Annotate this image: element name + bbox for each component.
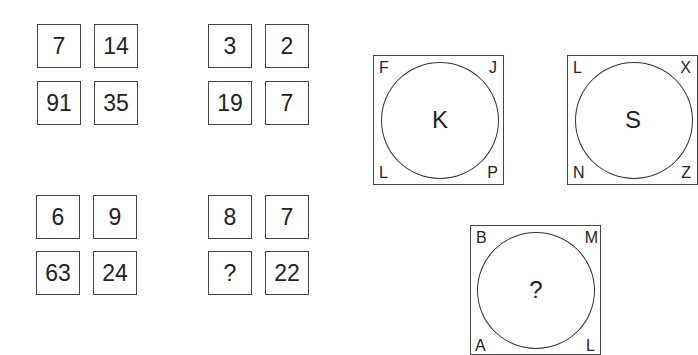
corner-top-left: B: [476, 230, 487, 246]
center-letter: S: [625, 106, 641, 134]
grid-cell: 6: [36, 195, 80, 239]
corner-top-right: M: [585, 230, 598, 246]
corner-top-left: F: [379, 60, 389, 76]
grid-cell: 3: [208, 24, 252, 68]
grid-cell: 7: [37, 24, 81, 68]
corner-top-right: J: [489, 60, 497, 76]
corner-bottom-right: P: [487, 165, 498, 181]
center-letter: ?: [529, 276, 542, 304]
grid-cell: 19: [208, 81, 252, 125]
grid-cell: 8: [208, 195, 252, 239]
corner-bottom-left: N: [573, 165, 585, 181]
circle-puzzle-unknown: ? B M A L: [470, 225, 601, 355]
circle-puzzle-k: K F J L P: [373, 55, 504, 185]
grid-cell: 7: [265, 81, 309, 125]
grid-cell: 63: [36, 251, 80, 295]
grid-cell: 9: [93, 195, 137, 239]
corner-bottom-right: Z: [681, 165, 691, 181]
grid-cell: 22: [265, 251, 309, 295]
corner-top-right: X: [680, 60, 691, 76]
circle-puzzle-s: S L X N Z: [567, 55, 698, 185]
grid-cell-unknown: ?: [208, 251, 252, 295]
corner-top-left: L: [573, 60, 582, 76]
grid-cell: 35: [94, 81, 138, 125]
corner-bottom-right: L: [586, 338, 595, 354]
grid-cell: 7: [265, 195, 309, 239]
center-letter: K: [432, 106, 448, 134]
corner-bottom-left: L: [379, 165, 388, 181]
grid-cell: 14: [94, 24, 138, 68]
grid-cell: 24: [93, 251, 137, 295]
corner-bottom-left: A: [475, 338, 486, 354]
grid-cell: 2: [265, 24, 309, 68]
grid-cell: 91: [37, 81, 81, 125]
